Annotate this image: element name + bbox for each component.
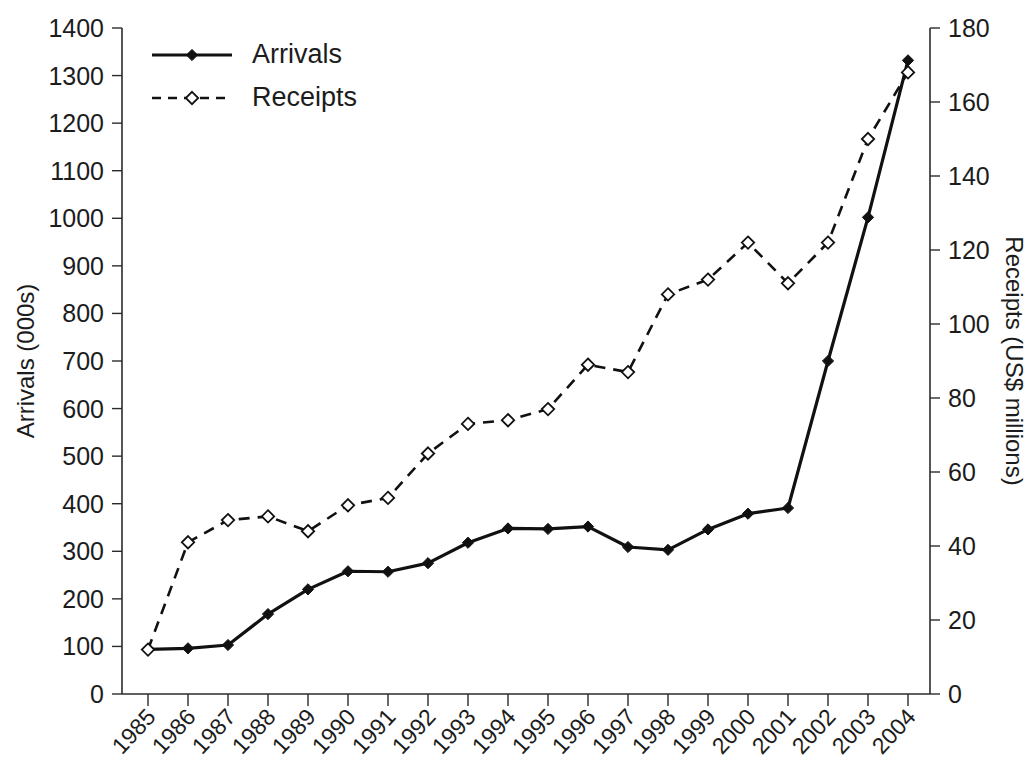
data-point-marker xyxy=(182,536,194,548)
series-line-receipts xyxy=(148,72,908,649)
left-tick-label: 300 xyxy=(62,537,104,565)
left-tick-label: 1000 xyxy=(48,204,104,232)
data-point-marker xyxy=(622,541,633,552)
data-point-marker xyxy=(702,524,713,535)
chart-legend: ArrivalsReceipts xyxy=(152,39,357,112)
legend-label: Receipts xyxy=(252,82,357,112)
left-tick-label: 1200 xyxy=(48,109,104,137)
data-point-marker xyxy=(142,643,154,655)
data-point-marker xyxy=(582,521,593,532)
x-tick-label: 1991 xyxy=(347,704,401,759)
right-tick-label: 80 xyxy=(948,384,976,412)
left-axis-title: Arrivals (000s) xyxy=(12,284,39,439)
data-point-marker xyxy=(702,273,714,285)
left-tick-label: 700 xyxy=(62,347,104,375)
x-tick-label: 1999 xyxy=(667,704,721,759)
right-tick-label: 120 xyxy=(948,236,990,264)
right-tick-label: 20 xyxy=(948,606,976,634)
data-point-marker xyxy=(662,544,673,555)
series-markers-receipts xyxy=(142,66,914,656)
right-axis-title: Receipts (US$ millions) xyxy=(1001,236,1028,485)
left-tick-label: 900 xyxy=(62,252,104,280)
legend-item-arrivals: Arrivals xyxy=(152,39,342,69)
legend-marker-filled-diamond xyxy=(186,49,197,60)
x-tick-label: 1988 xyxy=(227,704,281,759)
data-point-marker xyxy=(182,643,193,654)
chart-container: 0100200300400500600700800900100011001200… xyxy=(0,0,1033,779)
data-point-marker xyxy=(382,566,393,577)
left-tick-label: 1400 xyxy=(48,14,104,42)
left-tick-label: 0 xyxy=(90,680,104,708)
x-tick-label: 1990 xyxy=(307,704,361,759)
data-point-marker xyxy=(342,499,354,511)
x-tick-label: 1985 xyxy=(107,704,161,759)
data-point-marker xyxy=(502,523,513,534)
data-point-marker xyxy=(342,566,353,577)
data-point-marker xyxy=(742,508,753,519)
series-layer xyxy=(142,55,914,656)
x-tick-label: 1986 xyxy=(147,704,201,759)
data-point-marker xyxy=(422,558,433,569)
x-tick-label: 2001 xyxy=(747,704,801,759)
left-tick-label: 100 xyxy=(62,632,104,660)
right-tick-label: 160 xyxy=(948,88,990,116)
data-point-marker xyxy=(862,133,874,145)
data-point-marker xyxy=(622,366,634,378)
data-point-marker xyxy=(502,414,514,426)
left-tick-label: 1100 xyxy=(50,157,104,185)
x-tick-label: 1998 xyxy=(627,704,681,759)
right-tick-label: 40 xyxy=(948,532,976,560)
data-point-marker xyxy=(662,288,674,300)
data-point-marker xyxy=(542,403,554,415)
right-tick-label: 140 xyxy=(948,162,990,190)
data-point-marker xyxy=(902,55,913,66)
x-tick-label: 2004 xyxy=(867,704,921,759)
x-tick-label: 1994 xyxy=(467,704,521,759)
data-point-marker xyxy=(462,537,473,548)
data-point-marker xyxy=(222,514,234,526)
left-axis-ticks: 0100200300400500600700800900100011001200… xyxy=(48,14,122,708)
x-tick-label: 1995 xyxy=(507,704,561,759)
data-point-marker xyxy=(542,523,553,534)
legend-label: Arrivals xyxy=(252,39,342,69)
left-tick-label: 500 xyxy=(62,442,104,470)
right-tick-label: 0 xyxy=(948,680,962,708)
right-tick-label: 100 xyxy=(948,310,990,338)
data-point-marker xyxy=(782,502,793,513)
x-tick-label: 1992 xyxy=(387,704,441,759)
data-point-marker xyxy=(862,212,873,223)
left-tick-label: 800 xyxy=(62,299,104,327)
right-axis-ticks: 020406080100120140160180 xyxy=(930,14,990,708)
left-tick-label: 1300 xyxy=(48,62,104,90)
dual-axis-line-chart: 0100200300400500600700800900100011001200… xyxy=(0,0,1033,779)
data-point-marker xyxy=(462,418,474,430)
legend-marker-open-diamond xyxy=(186,92,198,104)
x-tick-label: 1997 xyxy=(587,704,641,759)
x-tick-label: 1993 xyxy=(427,704,481,759)
data-point-marker xyxy=(382,492,394,504)
left-tick-label: 200 xyxy=(62,585,104,613)
x-tick-label: 2002 xyxy=(787,704,841,759)
series-markers-arrivals xyxy=(142,55,913,655)
x-tick-label: 1996 xyxy=(547,704,601,759)
left-tick-label: 600 xyxy=(62,395,104,423)
right-tick-label: 60 xyxy=(948,458,976,486)
data-point-marker xyxy=(822,355,833,366)
x-tick-label: 1989 xyxy=(267,704,321,759)
series-line-arrivals xyxy=(148,60,908,649)
x-axis-ticks: 1985198619871988198919901991199219931994… xyxy=(107,694,921,759)
x-tick-label: 2003 xyxy=(827,704,881,759)
x-tick-label: 2000 xyxy=(707,704,761,759)
legend-item-receipts: Receipts xyxy=(152,82,357,112)
right-tick-label: 180 xyxy=(948,14,990,42)
x-tick-label: 1987 xyxy=(187,704,241,759)
data-point-marker xyxy=(262,510,274,522)
left-tick-label: 400 xyxy=(62,490,104,518)
